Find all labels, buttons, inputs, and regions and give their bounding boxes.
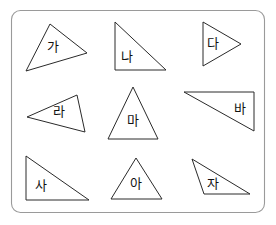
triangle-ma-label: 마: [127, 113, 139, 128]
worksheet-canvas: 가나다라마바사아자: [0, 0, 276, 225]
triangle-na-label: 나: [121, 49, 133, 64]
triangle-ja-label: 자: [207, 176, 219, 191]
triangles-figure: 가나다라마바사아자: [0, 0, 276, 225]
triangle-ga-label: 가: [47, 39, 59, 54]
triangle-a-label: 아: [130, 176, 142, 191]
triangle-da-label: 다: [207, 36, 219, 51]
triangle-ba-label: 바: [234, 101, 246, 116]
triangle-ra-label: 라: [53, 104, 65, 119]
triangle-sa-label: 사: [35, 178, 47, 193]
